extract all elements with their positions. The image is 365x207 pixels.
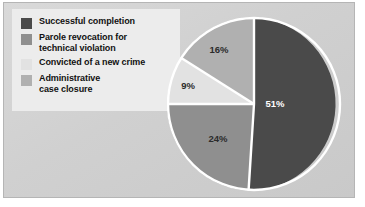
pie-data-label: 9% bbox=[181, 80, 195, 91]
chart-screenshot: Successful completion Parole revocation … bbox=[0, 0, 365, 207]
legend-item-administrative-closure[interactable]: Administrative case closure bbox=[21, 73, 179, 95]
chart-panel: Successful completion Parole revocation … bbox=[3, 2, 355, 198]
legend-swatch-icon bbox=[21, 34, 32, 45]
legend-swatch-icon bbox=[21, 18, 32, 29]
legend-swatch-icon bbox=[21, 75, 32, 86]
pie-chart: 51% 24% 9% 16% bbox=[167, 15, 342, 193]
pie-slice-successful-completion[interactable] bbox=[249, 17, 336, 191]
legend-item-label: Parole revocation for technical violatio… bbox=[39, 32, 127, 54]
pie-data-label: 16% bbox=[209, 44, 229, 55]
legend-item-convicted-new-crime[interactable]: Convicted of a new crime bbox=[21, 57, 179, 70]
legend-swatch-icon bbox=[21, 59, 32, 70]
legend-item-label: Administrative case closure bbox=[39, 73, 100, 95]
legend-list: Successful completion Parole revocation … bbox=[21, 16, 179, 98]
legend-item-parole-revocation[interactable]: Parole revocation for technical violatio… bbox=[21, 32, 179, 54]
legend-item-label: Successful completion bbox=[39, 16, 135, 27]
pie-data-label: 24% bbox=[208, 133, 228, 144]
pie-chart-svg: 51% 24% 9% 16% bbox=[167, 15, 342, 193]
legend-item-successful-completion[interactable]: Successful completion bbox=[21, 16, 179, 29]
pie-data-label: 51% bbox=[265, 98, 285, 109]
chart-legend: Successful completion Parole revocation … bbox=[12, 9, 180, 111]
legend-item-label: Convicted of a new crime bbox=[39, 57, 145, 68]
